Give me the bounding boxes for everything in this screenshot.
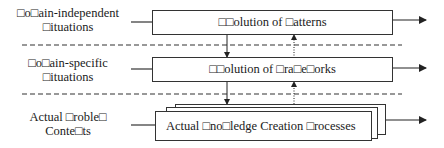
actual-knowledge-creation-processes-box: Actual □no□ledge Creation □rocesses	[155, 111, 372, 141]
evolution-of-patterns-box: □□olution of □atterns	[152, 10, 393, 35]
row-label-actual-problem-contexts: Actual □roble□ Conte□ts	[0, 110, 138, 138]
evolution-of-frameworks-box: □□olution of □ra□e□orks	[152, 57, 393, 82]
row-label-domain-independent: □o□ain-independent □ituations	[0, 6, 138, 34]
row-label-domain-specific: □o□ain-specific □ituations	[0, 56, 138, 84]
